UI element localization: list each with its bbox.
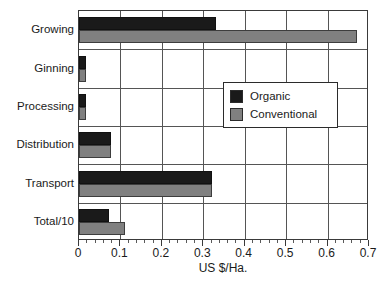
bar-processing-conventional (79, 107, 86, 120)
y-axis-label-ginning: Ginning (0, 62, 74, 74)
bar-ginning-organic (79, 56, 86, 69)
x-tick-minor (103, 240, 104, 243)
y-axis-label-growing: Growing (0, 23, 74, 35)
legend-label-organic: Organic (250, 90, 290, 103)
gridline-horizontal (79, 164, 367, 165)
x-tick-minor (235, 240, 236, 243)
x-tick-minor (219, 240, 220, 243)
legend-swatch-conventional-icon (230, 108, 243, 121)
legend-item-organic: Organic (230, 87, 337, 105)
bar-distribution-organic (79, 132, 111, 145)
gridline-vertical (120, 11, 121, 239)
y-axis-label-transport: Transport (0, 177, 74, 189)
gridline-vertical (203, 11, 204, 239)
x-tick-minor (136, 240, 137, 243)
x-tick-minor (227, 240, 228, 243)
x-tick-label: 0.3 (182, 247, 222, 260)
x-tick-minor (211, 240, 212, 243)
bar-ginning-conventional (79, 69, 86, 82)
x-tick-label: 0.5 (265, 247, 305, 260)
x-tick-minor (293, 240, 294, 243)
legend-swatch-organic-icon (230, 90, 243, 103)
x-tick-minor (335, 240, 336, 243)
x-tick-minor (277, 240, 278, 243)
x-tick-minor (144, 240, 145, 243)
x-tick-minor (194, 240, 195, 243)
x-tick-minor (86, 240, 87, 243)
bar-total-10-conventional (79, 222, 125, 235)
bar-transport-organic (79, 171, 212, 184)
x-tick-minor (252, 240, 253, 243)
x-tick-minor (343, 240, 344, 243)
bar-growing-organic (79, 17, 216, 30)
x-tick-minor (111, 240, 112, 243)
x-axis-title: US $/Ha. (78, 262, 368, 275)
y-axis-labels: GrowingGinningProcessingDistributionTran… (0, 10, 74, 240)
x-tick-label: 0 (58, 247, 98, 260)
bar-chart: GrowingGinningProcessingDistributionTran… (0, 0, 385, 281)
gridline-horizontal (79, 49, 367, 50)
bar-total-10-organic (79, 209, 109, 222)
bar-growing-conventional (79, 30, 357, 43)
x-tick-minor (310, 240, 311, 243)
legend-label-conventional: Conventional (250, 108, 317, 121)
x-tick-minor (186, 240, 187, 243)
gridline-horizontal (79, 203, 367, 204)
x-tick-minor (302, 240, 303, 243)
legend-item-conventional: Conventional (230, 105, 337, 123)
x-tick-minor (360, 240, 361, 243)
x-tick-minor (95, 240, 96, 243)
gridline-vertical (162, 11, 163, 239)
chart-legend: Organic Conventional (223, 82, 338, 128)
x-tick-label: 0.2 (141, 247, 181, 260)
x-tick-minor (260, 240, 261, 243)
x-tick-minor (169, 240, 170, 243)
x-tick-minor (269, 240, 270, 243)
x-tick-label: 0.6 (307, 247, 347, 260)
bar-transport-conventional (79, 184, 212, 197)
x-tick-minor (351, 240, 352, 243)
x-tick-label: 0.7 (348, 247, 385, 260)
y-axis-label-total-10: Total/10 (0, 215, 74, 227)
x-tick-minor (153, 240, 154, 243)
bar-processing-organic (79, 94, 86, 107)
x-tick-minor (318, 240, 319, 243)
bar-distribution-conventional (79, 145, 111, 158)
x-tick-label: 0.4 (224, 247, 264, 260)
y-axis-label-processing: Processing (0, 100, 74, 112)
x-tick-minor (177, 240, 178, 243)
x-tick-minor (128, 240, 129, 243)
x-tick-label: 0.1 (99, 247, 139, 260)
y-axis-label-distribution: Distribution (0, 138, 74, 150)
